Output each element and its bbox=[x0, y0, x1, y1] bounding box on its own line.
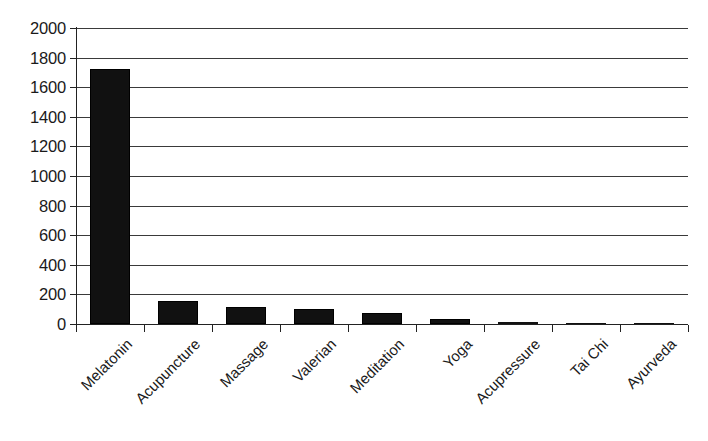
x-axis-category-label: Acupuncture bbox=[132, 336, 202, 406]
gridline bbox=[76, 146, 688, 147]
y-axis-tick-label: 1000 bbox=[0, 168, 66, 185]
y-axis-tick bbox=[70, 265, 77, 266]
x-axis-category-label-wrapper: Acupressure bbox=[472, 336, 542, 406]
y-axis-tick bbox=[70, 58, 77, 59]
x-axis-tick bbox=[620, 325, 621, 332]
x-axis-category-label: Yoga bbox=[440, 336, 474, 370]
x-axis-tick bbox=[144, 325, 145, 332]
y-axis-tick bbox=[70, 117, 77, 118]
bar bbox=[226, 307, 266, 324]
x-axis-tick bbox=[552, 325, 553, 332]
y-axis-tick bbox=[70, 294, 77, 295]
x-axis-category-label-wrapper: Meditation bbox=[347, 336, 407, 396]
y-axis-tick-label: 2000 bbox=[0, 20, 66, 37]
gridline bbox=[76, 235, 688, 236]
x-axis-category-label-wrapper: Acupuncture bbox=[132, 336, 202, 406]
x-axis-category-label-wrapper: Tai Chi bbox=[568, 336, 611, 379]
gridline bbox=[76, 176, 688, 177]
x-axis-category-label-wrapper: Melatonin bbox=[78, 336, 135, 393]
x-axis-tick bbox=[484, 325, 485, 332]
y-axis-tick-label: 800 bbox=[0, 198, 66, 215]
gridline bbox=[76, 206, 688, 207]
x-axis-category-label: Valerian bbox=[290, 336, 339, 385]
y-axis-tick bbox=[70, 146, 77, 147]
y-axis-tick-label: 0 bbox=[0, 316, 66, 333]
bar-chart: 0200400600800100012001400160018002000 Me… bbox=[0, 0, 708, 441]
x-axis-line bbox=[76, 324, 688, 325]
y-axis-tick-label: 400 bbox=[0, 257, 66, 274]
y-axis-tick-label: 600 bbox=[0, 227, 66, 244]
y-axis-tick-labels: 0200400600800100012001400160018002000 bbox=[0, 0, 66, 441]
gridline bbox=[76, 87, 688, 88]
y-axis-tick-label: 1200 bbox=[0, 138, 66, 155]
x-axis-category-label-wrapper: Massage bbox=[217, 336, 271, 390]
plot-area bbox=[76, 28, 688, 324]
bar bbox=[158, 301, 198, 324]
y-axis-tick bbox=[70, 206, 77, 207]
y-axis-tick-label: 1800 bbox=[0, 50, 66, 67]
x-axis-category-label: Acupressure bbox=[472, 336, 542, 406]
y-axis-tick bbox=[70, 235, 77, 236]
gridline bbox=[76, 28, 688, 29]
y-axis-tick-label: 1400 bbox=[0, 109, 66, 126]
bar bbox=[90, 69, 130, 324]
gridline bbox=[76, 58, 688, 59]
x-axis-category-label-wrapper: Ayurveda bbox=[623, 336, 678, 391]
x-axis-category-label: Meditation bbox=[347, 336, 407, 396]
x-axis-category-label: Massage bbox=[217, 336, 271, 390]
x-axis-tick bbox=[416, 325, 417, 332]
y-axis-tick bbox=[70, 176, 77, 177]
x-axis-category-label-wrapper: Valerian bbox=[290, 336, 339, 385]
x-axis-category-label-wrapper: Yoga bbox=[440, 336, 474, 370]
x-axis-category-label: Tai Chi bbox=[568, 336, 611, 379]
gridline bbox=[76, 117, 688, 118]
y-axis-tick-label: 1600 bbox=[0, 79, 66, 96]
x-axis-tick bbox=[348, 325, 349, 332]
y-axis-tick-label: 200 bbox=[0, 286, 66, 303]
x-axis-category-label: Ayurveda bbox=[623, 336, 678, 391]
x-axis-category-label: Melatonin bbox=[78, 336, 135, 393]
gridline bbox=[76, 265, 688, 266]
x-axis-tick bbox=[688, 325, 689, 332]
x-axis-tick bbox=[76, 325, 77, 332]
x-axis-tick bbox=[212, 325, 213, 332]
x-axis-tick bbox=[280, 325, 281, 332]
gridline bbox=[76, 294, 688, 295]
y-axis-tick bbox=[70, 28, 77, 29]
bar bbox=[362, 313, 402, 324]
y-axis-tick bbox=[70, 87, 77, 88]
bar bbox=[294, 309, 334, 324]
